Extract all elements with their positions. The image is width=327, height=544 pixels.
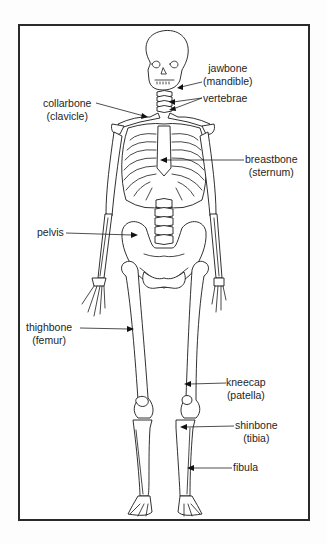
label-jawbone: jawbone (mandible) [203, 62, 253, 88]
label-pelvis: pelvis [37, 226, 64, 239]
label-thighbone-common: thighbone [26, 321, 72, 334]
label-thighbone-scientific: (femur) [26, 334, 72, 347]
label-kneecap-scientific: (patella) [226, 389, 266, 402]
label-breastbone-common: breastbone [245, 153, 298, 166]
label-vertebrae-common: vertebrae [203, 92, 247, 105]
label-pelvis-common: pelvis [37, 226, 64, 239]
feet [128, 496, 202, 516]
leader-fibula [187, 465, 232, 471]
label-fibula-common: fibula [233, 461, 258, 474]
right-arm [200, 132, 226, 312]
label-collarbone-scientific: (clavicle) [43, 110, 91, 123]
label-breastbone: breastbone (sternum) [245, 153, 298, 179]
label-vertebrae: vertebrae [203, 92, 247, 105]
label-breastbone-scientific: (sternum) [245, 166, 298, 179]
label-thighbone: thighbone (femur) [26, 321, 72, 347]
label-kneecap: kneecap (patella) [226, 376, 266, 402]
label-collarbone-common: collarbone [43, 97, 91, 110]
label-jawbone-scientific: (mandible) [203, 75, 253, 88]
leader-vertebrae [169, 98, 202, 111]
label-fibula: fibula [233, 461, 258, 474]
label-shinbone: shinbone (tibia) [235, 419, 278, 445]
lower-legs [133, 420, 195, 496]
leader-collarbone [96, 103, 148, 119]
label-kneecap-common: kneecap [226, 376, 266, 389]
leader-thighbone [80, 326, 134, 332]
left-arm [82, 132, 122, 316]
cervical-vertebrae [157, 91, 172, 113]
label-shinbone-common: shinbone [235, 419, 278, 432]
label-collarbone: collarbone (clavicle) [43, 97, 91, 123]
label-jawbone-common: jawbone [203, 62, 253, 75]
skull [146, 30, 188, 90]
leader-kneecap [184, 381, 226, 387]
skeleton-illustration [0, 0, 327, 544]
label-shinbone-scientific: (tibia) [235, 432, 278, 445]
leader-jawbone [177, 82, 202, 90]
ribcage [122, 124, 207, 209]
lumbar-spine [155, 199, 173, 245]
